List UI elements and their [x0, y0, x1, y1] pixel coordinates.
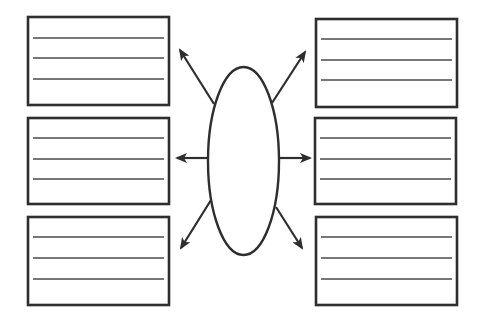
- diagram-canvas: [0, 0, 480, 328]
- writing-box-top-right[interactable]: [316, 19, 457, 107]
- writing-box-bottom-right[interactable]: [316, 217, 457, 305]
- central-oval-group: [208, 67, 279, 255]
- writing-box-middle-right[interactable]: [315, 118, 456, 204]
- box-border: [316, 217, 457, 305]
- writing-box-middle-left[interactable]: [28, 118, 169, 204]
- arrow-top-right-icon: [272, 52, 305, 103]
- writing-box-top-left[interactable]: [28, 17, 169, 105]
- box-border: [316, 19, 457, 107]
- graphic-organizer: [0, 0, 480, 328]
- arrow-bottom-right-icon: [276, 207, 302, 248]
- central-oval[interactable]: [208, 67, 279, 255]
- arrow-bottom-left-icon: [181, 200, 211, 248]
- box-border: [315, 118, 456, 204]
- box-border: [28, 217, 169, 305]
- writing-box-bottom-left[interactable]: [28, 217, 169, 305]
- arrow-top-left-icon: [180, 50, 214, 104]
- box-border: [28, 17, 169, 105]
- box-border: [28, 118, 169, 204]
